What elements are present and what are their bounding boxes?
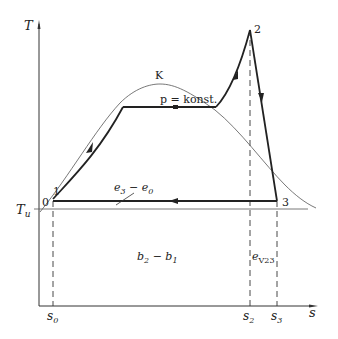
- flow-arrows: [86, 70, 264, 204]
- critical-point-label: K: [155, 69, 164, 82]
- tick-s2: s2: [243, 309, 254, 325]
- y-axis-label: T: [24, 18, 34, 33]
- x-axis-label: s: [309, 305, 316, 320]
- exergy-loss-label: e3 − e0: [114, 181, 153, 196]
- process-1-liquid-heating: [53, 107, 123, 199]
- cycle-path: [53, 30, 277, 201]
- ambient-temperature-label: Tu: [16, 202, 31, 219]
- arrow-up-icon: [233, 70, 238, 80]
- point-1-label: 1: [53, 185, 60, 198]
- process-superheating: [216, 30, 250, 107]
- arrow-up-icon: [86, 142, 93, 153]
- dashed-guides: [53, 30, 277, 306]
- anergy-label: b2 − b1: [137, 250, 178, 265]
- tick-s3: s3: [271, 309, 282, 325]
- tick-s0: s0: [47, 309, 58, 325]
- process-2-3-expansion: [250, 30, 277, 201]
- point-3-label: 3: [282, 196, 289, 209]
- axes: [38, 20, 319, 308]
- isobar-label: p = konst.: [160, 93, 217, 106]
- point-0-label: 0: [42, 196, 49, 209]
- point-2-label: 2: [254, 23, 261, 36]
- ev23-label: eV23: [252, 250, 274, 265]
- t-s-diagram: T s Tu 0 1 2 3 K p = konst. e3 − e0 b2 −…: [0, 0, 338, 339]
- y-axis-arrow-icon: [38, 20, 41, 29]
- arrow-left-icon: [169, 198, 178, 204]
